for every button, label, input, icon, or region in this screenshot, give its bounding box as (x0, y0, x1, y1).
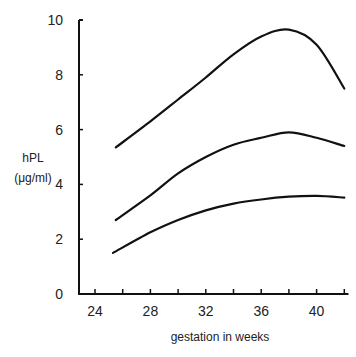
x-tick-label: 40 (309, 303, 325, 319)
chart-axes (78, 20, 348, 294)
lower-curve (113, 196, 344, 253)
x-axis-label: gestation in weeks (140, 330, 300, 344)
y-tick-label: 6 (55, 122, 63, 138)
y-axis-label-line2: (μg/ml) (8, 168, 58, 188)
y-tick-label: 10 (47, 12, 63, 28)
x-tick-label: 36 (253, 303, 269, 319)
x-tick-label: 32 (198, 303, 214, 319)
y-axis-label: hPL (μg/ml) (8, 148, 58, 188)
x-tick-label: 28 (143, 303, 159, 319)
y-axis-label-line1: hPL (8, 148, 58, 168)
y-tick-label: 0 (55, 286, 63, 302)
middle-curve (116, 132, 344, 220)
y-tick-label: 2 (55, 231, 63, 247)
data-series (113, 29, 344, 253)
y-tick-label: 8 (55, 67, 63, 83)
axis-ticks: 02468102428323640 (47, 12, 344, 319)
upper-curve (116, 29, 344, 147)
x-tick-label: 24 (87, 303, 103, 319)
